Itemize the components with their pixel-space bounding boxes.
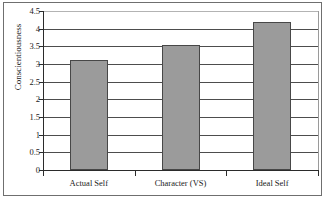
y-tick-mark bbox=[39, 11, 43, 12]
bar-actual-self bbox=[70, 60, 108, 170]
y-axis-line bbox=[43, 11, 44, 171]
bar-ideal-self bbox=[253, 22, 291, 170]
y-tick-mark bbox=[39, 46, 43, 47]
y-tick-mark bbox=[39, 29, 43, 30]
x-axis-tick-labels: Actual SelfCharacter (VS)Ideal Self bbox=[43, 178, 319, 194]
y-tick-mark bbox=[39, 82, 43, 83]
bar-character-vs bbox=[162, 45, 200, 170]
x-tick-label: Actual Self bbox=[70, 178, 108, 188]
y-tick-mark bbox=[39, 99, 43, 100]
x-tick-mark bbox=[226, 171, 227, 176]
plot-area bbox=[43, 11, 318, 170]
y-tick-mark bbox=[39, 64, 43, 65]
y-axis-tick-labels: 00.511.522.533.544.5 bbox=[14, 11, 40, 170]
gridline bbox=[43, 11, 318, 12]
x-tick-mark bbox=[135, 171, 136, 176]
y-tick-mark bbox=[39, 135, 43, 136]
x-axis-line bbox=[43, 170, 319, 171]
plot-right-edge bbox=[318, 11, 319, 171]
x-tick-label: Character (VS) bbox=[155, 178, 207, 188]
y-tick-mark bbox=[39, 152, 43, 153]
y-tick-mark bbox=[39, 117, 43, 118]
bar-chart: Conscientiousness 00.511.522.533.544.5 A… bbox=[0, 0, 326, 199]
x-tick-label: Ideal Self bbox=[256, 178, 289, 188]
x-tick-mark bbox=[43, 171, 44, 176]
x-tick-mark bbox=[318, 171, 319, 176]
